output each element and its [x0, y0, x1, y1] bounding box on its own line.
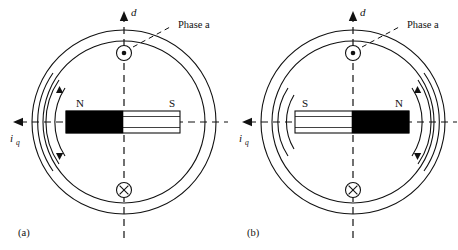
- conductor-bottom-a: [117, 183, 132, 198]
- phase-label-a: Phase a: [178, 19, 210, 30]
- conductor-top-b: [346, 46, 361, 61]
- q-axis-label-b: i: [239, 132, 242, 144]
- phase-label-b: Phase a: [407, 19, 439, 30]
- pole-label-right-b: N: [395, 97, 403, 109]
- q-axis-label-sub-b: q: [245, 138, 249, 147]
- panel-caption-b: (b): [247, 227, 260, 239]
- pole-label-right-a: S: [169, 97, 175, 109]
- conductor-bottom-b: [346, 183, 361, 198]
- q-axis-label-sub-a: q: [16, 138, 20, 147]
- d-axis-label-b: d: [360, 6, 366, 18]
- q-axis-label-a: i: [10, 132, 13, 144]
- current-out-dot-icon-b: [351, 51, 356, 56]
- magnet-north-half-a: [66, 111, 123, 133]
- pole-label-left-b: S: [302, 97, 308, 109]
- pm-rotor-figure: d i q N S Phase a (a): [0, 0, 458, 250]
- magnet-north-half-b: [352, 111, 409, 133]
- panel-caption-a: (a): [18, 227, 30, 239]
- d-axis-label-a: d: [131, 6, 137, 18]
- conductor-top-a: [117, 46, 132, 61]
- pole-label-left-a: N: [76, 97, 84, 109]
- current-out-dot-icon-a: [122, 51, 127, 56]
